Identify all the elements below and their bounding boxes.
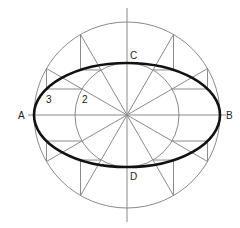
label-point-3: 3 — [46, 94, 52, 105]
radial-line — [127, 34, 174, 115]
label-a: A — [18, 110, 25, 121]
label-c: C — [130, 50, 137, 61]
construction-lines — [28, 8, 226, 222]
label-d: D — [130, 171, 137, 182]
radial-line — [46, 115, 127, 162]
ellipse-construction-diagram: A B C D 3 2 — [0, 0, 240, 228]
radial-line — [46, 69, 127, 116]
label-b: B — [226, 110, 233, 121]
radial-line — [127, 115, 174, 196]
radial-line — [81, 115, 128, 196]
radial-line — [127, 69, 208, 116]
radial-line — [127, 115, 208, 162]
label-point-2: 2 — [82, 94, 88, 105]
